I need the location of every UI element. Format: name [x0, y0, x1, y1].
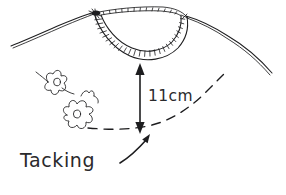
tacking-pointer: [120, 134, 150, 163]
motif-left-center: [54, 78, 61, 86]
measurement-label: 11cm: [148, 87, 193, 105]
right-shoulder-seam-echo: [187, 18, 270, 75]
embroidered-flower-motif-right: [63, 91, 98, 129]
neckband-inner-edge: [101, 15, 181, 51]
neckband-rib-ticks-top: [103, 8, 177, 15]
motif-left-petals: [45, 70, 67, 94]
left-shoulder-seam-line: [11, 12, 95, 46]
motif-right-leaf-a: [81, 91, 94, 96]
neckband-rib-ticks-left: [95, 19, 140, 56]
left-shoulder-seam-echo: [13, 14, 94, 48]
neckline-sketch-figure: 11cm Tacking: [0, 0, 286, 195]
motif-right-center: [73, 110, 80, 118]
embroidered-flower-motif-left: [36, 70, 74, 94]
neckband-top-inner: [101, 11, 181, 16]
motif-right-petals: [63, 100, 93, 128]
garment-body-outline: [11, 12, 272, 75]
right-shoulder-seam-line: [186, 16, 272, 73]
dimension-arrow-head-up: [135, 63, 144, 75]
sketch-canvas: 11cm Tacking: [0, 0, 286, 195]
motif-right-leaf-b: [94, 96, 98, 103]
neckband-outer-edge: [94, 13, 188, 60]
tacking-label: Tacking: [19, 149, 95, 171]
tacking-pointer-shaft: [120, 139, 147, 163]
vertical-double-arrow: [135, 63, 144, 134]
ribbed-neckline-band: [89, 7, 188, 60]
